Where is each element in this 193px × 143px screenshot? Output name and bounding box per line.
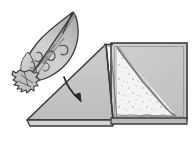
illustration-canvas: Leaf folding into triangular prism diagr…: [0, 0, 193, 143]
base-strip-left: [27, 120, 113, 126]
base-strip-right: [111, 118, 187, 124]
figure-svg: [0, 0, 193, 143]
